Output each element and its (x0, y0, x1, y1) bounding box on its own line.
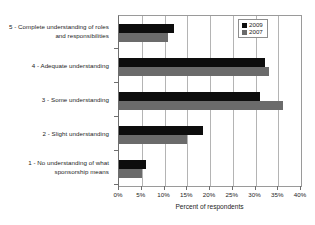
category-label: 4 - Adequate understanding (0, 49, 114, 83)
bar-2007 (119, 67, 269, 76)
bar-group (119, 118, 301, 152)
bar-2009 (119, 126, 203, 135)
x-axis-tick (141, 186, 142, 190)
x-axis-tick-label: 35% (271, 191, 283, 198)
bar-2009 (119, 92, 260, 101)
x-axis-tick (164, 186, 165, 190)
x-axis-tick (277, 186, 278, 190)
x-axis-tick-label: 5% (136, 191, 145, 198)
x-axis-tick-label: 0% (114, 191, 123, 198)
x-axis-tick-label: 15% (180, 191, 192, 198)
bar-2009 (119, 160, 146, 169)
x-axis-tick-label: 30% (248, 191, 260, 198)
bar-group (119, 50, 301, 84)
bar-groups (119, 16, 301, 186)
x-axis-tick (300, 186, 301, 190)
x-axis-tick (186, 186, 187, 190)
legend-swatch-icon (242, 30, 247, 35)
bar-chart: 5 - Complete understanding of roles and … (0, 0, 315, 225)
bar-group (119, 84, 301, 118)
x-axis-tick-label: 25% (226, 191, 238, 198)
bar-group (119, 152, 301, 186)
x-axis-title: Percent of respondents (118, 203, 301, 210)
x-axis-tick (255, 186, 256, 190)
x-axis-tick-label: 40% (294, 191, 306, 198)
x-axis-tick (118, 186, 119, 190)
x-axis-tick-label: 20% (203, 191, 215, 198)
legend-swatch-icon (242, 23, 247, 28)
bar-2009 (119, 58, 265, 67)
category-axis-labels: 5 - Complete understanding of roles and … (0, 15, 114, 185)
legend-item-2007: 2007 (242, 29, 263, 35)
x-axis-tick (232, 186, 233, 190)
legend-label: 2007 (249, 29, 263, 35)
bar-group (119, 16, 301, 50)
category-label: 2 - Slight understanding (0, 117, 114, 151)
category-label: 1 - No understanding of what sponsorship… (0, 151, 114, 185)
category-label: 5 - Complete understanding of roles and … (0, 15, 114, 49)
x-axis-tick-label: 10% (157, 191, 169, 198)
plot-area (118, 15, 302, 187)
x-axis-tick (209, 186, 210, 190)
bar-2007 (119, 33, 168, 42)
bar-2007 (119, 169, 142, 178)
bar-2007 (119, 135, 187, 144)
bar-2009 (119, 24, 174, 33)
x-axis-tick-labels: 0%5%10%15%20%25%30%35%40% (118, 191, 301, 201)
bar-2007 (119, 101, 283, 110)
legend: 2009 2007 (238, 19, 268, 38)
category-label: 3 - Some understanding (0, 83, 114, 117)
x-axis-ticks (118, 186, 301, 190)
